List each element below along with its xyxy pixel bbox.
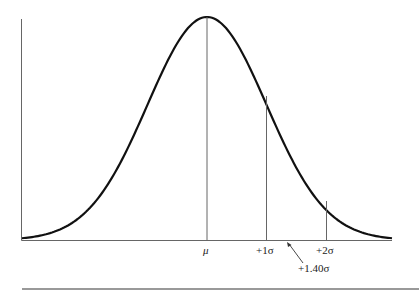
plus2-sigma-label: +2σ <box>316 244 334 256</box>
plus140-arrow <box>289 244 303 263</box>
normal-distribution-chart: μ +1σ +2σ +1.40σ <box>0 0 419 291</box>
plus1-sigma-label: +1σ <box>256 244 274 256</box>
plus140-sigma-label: +1.40σ <box>298 262 329 274</box>
mean-label: μ <box>202 244 209 256</box>
